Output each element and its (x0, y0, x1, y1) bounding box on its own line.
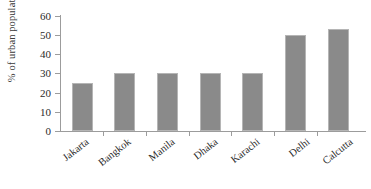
y-tick-label-60: 60 (17, 11, 51, 22)
y-tick-label-0: 0 (17, 126, 51, 137)
x-tick-mark-4 (231, 131, 232, 136)
x-tick-mark-1 (103, 131, 104, 136)
x-axis-line (60, 131, 366, 132)
bar-manila (157, 73, 178, 131)
y-tick-label-40: 40 (17, 49, 51, 60)
bar-calcutta (328, 29, 349, 131)
y-tick-label-30: 30 (17, 68, 51, 79)
y-tick-label-20: 20 (17, 88, 51, 99)
x-tick-mark-3 (189, 131, 190, 136)
x-tick-mark-6 (317, 131, 318, 136)
bar-dhaka (200, 73, 221, 131)
x-tick-mark-5 (274, 131, 275, 136)
bar-bangkok (114, 73, 135, 131)
y-tick-label-50: 50 (17, 30, 51, 41)
y-tick-label-10: 10 (17, 107, 51, 118)
bar-chart: % of urban population 60 50 40 30 20 10 … (0, 0, 371, 189)
bar-jakarta (72, 83, 93, 131)
y-axis-line (60, 15, 61, 132)
x-tick-mark-2 (146, 131, 147, 136)
bar-karachi (242, 73, 263, 131)
bar-delhi (285, 35, 306, 131)
